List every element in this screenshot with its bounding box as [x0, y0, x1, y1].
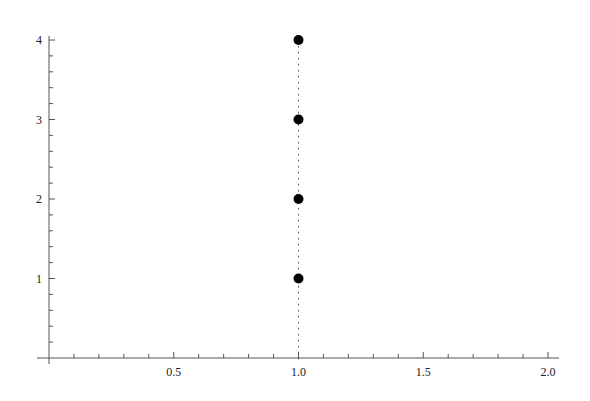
- x-tick-label: 1.0: [291, 365, 306, 379]
- y-axis: 1234: [36, 33, 55, 364]
- scatter-chart: 1234 0.51.01.52.0: [0, 0, 590, 401]
- y-tick-label: 4: [36, 33, 42, 47]
- y-tick-label: 1: [36, 272, 42, 286]
- y-tick-label: 3: [36, 113, 42, 127]
- x-axis: 0.51.01.52.0: [37, 352, 559, 379]
- data-point: [294, 115, 304, 125]
- data-point: [294, 194, 304, 204]
- x-tick-label: 2.0: [541, 365, 556, 379]
- data-point: [294, 274, 304, 284]
- x-tick-label: 1.5: [416, 365, 431, 379]
- x-tick-label: 0.5: [166, 365, 181, 379]
- data-point: [294, 35, 304, 45]
- data-points: [294, 35, 304, 284]
- y-tick-label: 2: [36, 192, 42, 206]
